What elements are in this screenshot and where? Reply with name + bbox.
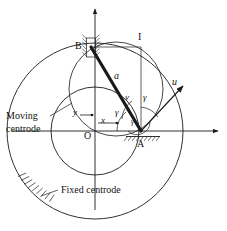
- leader-lines: [0, 0, 227, 231]
- leader-moving-centrode: [50, 103, 72, 116]
- centrode-kinematics-figure: B I A O x y a v u γ γ γ Moving centrode …: [0, 0, 227, 231]
- leader-fixed-centrode: [41, 190, 58, 196]
